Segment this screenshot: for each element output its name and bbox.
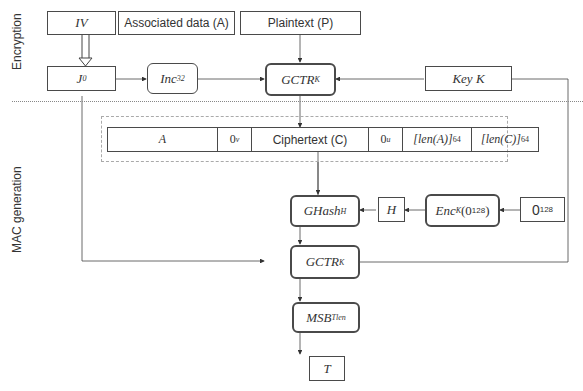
iv-input-box: IV <box>47 11 116 35</box>
zero-block-box: 0128 <box>520 197 565 222</box>
plaintext-box: Plaintext (P) <box>240 11 361 35</box>
inc32-block: Inc32 <box>147 63 198 94</box>
inc-subscript: 32 <box>177 74 185 83</box>
concat-cell-pad-v: 0v <box>218 128 252 151</box>
cell-a-label: A <box>159 132 166 147</box>
h-box: H <box>378 197 405 222</box>
cell-ciphertext-label: Ciphertext (C) <box>273 133 348 147</box>
concat-cell-len-c: [len(C)]64 <box>472 128 538 151</box>
msb-block: MSBTlen <box>292 302 360 333</box>
gctr-top-subscript: K <box>314 75 319 84</box>
msb-label: MSB <box>306 310 331 326</box>
enc-arg-sup: 128 <box>472 206 485 215</box>
zero-label: 0 <box>532 202 540 218</box>
cell-len-a-sub: 64 <box>453 135 461 144</box>
cell-len-a-label: [len(A)] <box>413 132 452 147</box>
gctr-tag-block: GCTRK <box>290 245 360 279</box>
cell-len-c-sub: 64 <box>521 135 529 144</box>
h-label: H <box>387 202 396 218</box>
key-box: Key K <box>425 66 512 91</box>
ghash-block: GHashH <box>290 195 360 227</box>
iv-label: IV <box>75 15 87 31</box>
plaintext-label: Plaintext (P) <box>268 16 333 30</box>
mac-generation-section-label: MAC generation <box>10 166 24 253</box>
key-label: Key K <box>452 71 484 87</box>
ghash-label: GHash <box>304 203 341 219</box>
tag-output-box: T <box>309 356 345 381</box>
gctr-bottom-label: GCTR <box>306 254 339 270</box>
enc-arg-open: (0 <box>461 203 472 219</box>
zero-sup: 128 <box>540 205 553 214</box>
j0-subscript: 0 <box>82 74 86 83</box>
section-divider <box>12 101 583 102</box>
encryption-section-label: Encryption <box>10 13 24 70</box>
msb-subscript: Tlen <box>332 313 346 322</box>
concat-cell-len-a: [len(A)]64 <box>403 128 472 151</box>
associated-data-label: Associated data (A) <box>124 16 229 30</box>
enc-label: Enc <box>435 203 455 219</box>
concat-cell-pad-u: 0u <box>369 128 403 151</box>
cell-pad-u-sup: u <box>387 135 391 144</box>
enc-block: EncK(0128) <box>425 194 500 227</box>
concat-cell-ciphertext: Ciphertext (C) <box>252 128 369 151</box>
concat-cell-a: A <box>108 128 218 151</box>
inc-label: Inc <box>160 71 177 87</box>
associated-data-box: Associated data (A) <box>118 11 235 35</box>
j0-box: J0 <box>47 66 116 91</box>
gctr-bottom-subscript: K <box>339 258 344 267</box>
cell-pad-v-sup: v <box>236 135 240 144</box>
gctr-encryption-block: GCTRK <box>265 63 336 96</box>
gctr-top-label: GCTR <box>281 72 314 88</box>
ghash-subscript: H <box>341 207 347 216</box>
iv-to-j0-arrow <box>79 35 92 66</box>
concat-row: A 0v Ciphertext (C) 0u [len(A)]64 [len(C… <box>107 127 539 152</box>
enc-arg-close: ) <box>485 203 489 219</box>
cell-len-c-label: [len(C)] <box>481 132 521 147</box>
tag-label: T <box>323 361 330 377</box>
